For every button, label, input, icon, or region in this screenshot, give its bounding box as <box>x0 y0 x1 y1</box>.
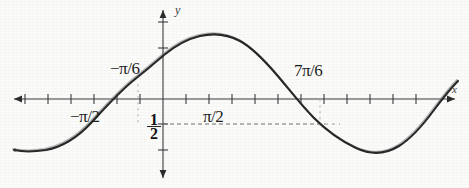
y-axis <box>160 10 167 178</box>
label-seven-pi-over-6: 7π/6 <box>294 62 322 79</box>
curve-left-endpoint <box>13 148 16 151</box>
fraction-denominator: 2 <box>146 127 162 140</box>
x-axis-label: x <box>452 84 457 95</box>
label-one-half: 1 2 <box>146 113 162 140</box>
sine-graph-figure: −π/6 −π/2 π/2 7π/6 y x 1 2 <box>0 0 469 188</box>
sine-curve <box>14 34 458 152</box>
label-pi-over-2: π/2 <box>203 108 223 125</box>
graph-canvas <box>0 0 469 188</box>
label-neg-pi-over-2: −π/2 <box>70 108 99 125</box>
y-axis-label: y <box>175 4 180 16</box>
x-axis <box>14 96 455 103</box>
label-neg-pi-over-6: −π/6 <box>110 60 139 77</box>
